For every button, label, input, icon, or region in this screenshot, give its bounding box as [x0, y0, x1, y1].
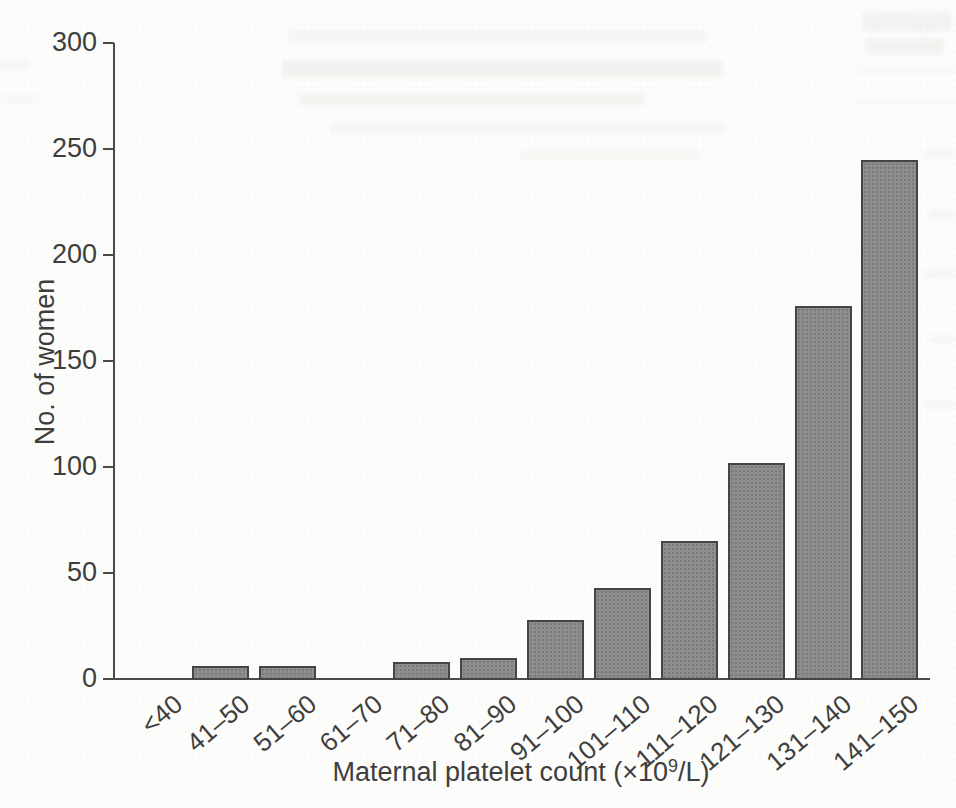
bar-111–120: [661, 541, 718, 680]
y-axis-tick: [103, 360, 114, 362]
bar-81–90: [460, 658, 517, 680]
y-tick-label: 150: [52, 347, 97, 374]
bleedthrough-smudge: [858, 68, 954, 72]
bleedthrough-smudge: [330, 122, 725, 134]
x-axis-title-superscript: 9: [668, 756, 678, 776]
bleedthrough-smudge: [862, 12, 952, 31]
bleedthrough-smudge: [928, 335, 956, 343]
y-axis-tick: [103, 678, 114, 680]
bleedthrough-smudge: [520, 150, 700, 160]
x-tick-label: 51–60: [248, 690, 320, 756]
bleedthrough-smudge: [928, 210, 956, 218]
bleedthrough-smudge: [924, 270, 956, 278]
x-axis-title-suffix: /L): [678, 757, 710, 787]
y-tick-label: 200: [52, 241, 97, 268]
bleedthrough-smudge: [300, 93, 645, 106]
y-axis-tick: [103, 572, 114, 574]
y-axis-tick: [103, 466, 114, 468]
bar-101–110: [594, 588, 651, 680]
bleedthrough-smudge: [282, 60, 722, 78]
x-tick-label: <40: [136, 690, 187, 738]
bleedthrough-smudge: [288, 30, 708, 43]
bleedthrough-smudge: [866, 38, 944, 54]
bar-141–150: [861, 160, 918, 680]
scanned-page: No. of women 050100150200250300 <4041–50…: [0, 0, 956, 808]
bleedthrough-smudge: [924, 150, 954, 158]
y-tick-label: 0: [82, 665, 97, 692]
y-axis-tick: [103, 148, 114, 150]
x-tick-label: 71–80: [382, 690, 454, 756]
bleedthrough-smudge: [0, 95, 40, 103]
bar-131–140: [795, 306, 852, 680]
bleedthrough-smudge: [924, 400, 956, 408]
bar-91–100: [527, 620, 584, 680]
bleedthrough-smudge: [0, 60, 30, 70]
bar-41–50: [192, 666, 249, 680]
x-axis-title: Maternal platelet count (×109/L): [333, 757, 710, 788]
x-tick-label: 41–50: [182, 690, 254, 756]
bleedthrough-smudge: [858, 100, 954, 104]
x-axis-title-text: Maternal platelet count (×10: [333, 757, 668, 787]
y-tick-label: 250: [52, 135, 97, 162]
y-tick-label: 100: [52, 453, 97, 480]
x-tick-label: 61–70: [315, 690, 387, 756]
y-tick-label: 300: [52, 29, 97, 56]
bar-121–130: [728, 463, 785, 680]
y-axis-tick: [103, 42, 114, 44]
y-axis-tick: [103, 254, 114, 256]
bar-51–60: [259, 666, 316, 680]
bar-71–80: [393, 662, 450, 680]
y-tick-label: 50: [67, 559, 97, 586]
